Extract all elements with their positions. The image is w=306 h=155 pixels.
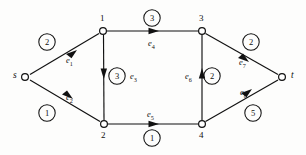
capacity-label-e2: 1 <box>41 109 53 118</box>
node-4[interactable] <box>199 121 206 128</box>
edge-label-e3: e3 <box>130 72 137 83</box>
capacity-label-e5: 1 <box>146 134 158 143</box>
network-diagram-canvas: s 1 2 3 4 t 2 1 3 3 1 2 2 5 e1 e2 e3 e4 … <box>0 0 306 155</box>
edge-label-e2-sub: 2 <box>70 97 73 104</box>
arrowhead-e4 <box>149 28 160 34</box>
node-label-s: s <box>13 71 17 81</box>
edge-label-e5: e5 <box>147 110 154 121</box>
node-label-4: 4 <box>199 131 204 140</box>
node-s[interactable] <box>22 74 29 81</box>
edge-label-e8-sub: 8 <box>244 92 247 99</box>
edge-label-e6-sub: 6 <box>189 76 192 83</box>
edge-label-e1: e1 <box>66 56 73 67</box>
capacity-label-e6: 2 <box>206 72 218 81</box>
node-2[interactable] <box>101 121 108 128</box>
capacity-label-e1: 2 <box>41 38 53 47</box>
node-t[interactable] <box>279 74 286 81</box>
node-label-3: 3 <box>199 14 204 23</box>
node-label-t: t <box>291 71 294 81</box>
node-3[interactable] <box>199 28 206 35</box>
edge-label-e2: e2 <box>66 93 73 104</box>
node-label-2: 2 <box>101 131 106 140</box>
graph-svg <box>0 0 306 155</box>
arrowhead-e3 <box>101 69 107 80</box>
arrowhead-e5 <box>149 121 160 127</box>
edge-label-e4: e4 <box>148 39 155 50</box>
capacity-label-e8: 5 <box>247 109 259 118</box>
capacity-label-e3: 3 <box>111 72 123 81</box>
edge-label-e6: e6 <box>185 72 192 83</box>
edge-label-e8: e8 <box>240 88 247 99</box>
node-label-1: 1 <box>100 14 105 23</box>
edge-label-e3-sub: 3 <box>134 76 137 83</box>
edge-label-e7-sub: 7 <box>243 62 246 69</box>
capacity-label-e7: 2 <box>245 38 257 47</box>
edge-label-e7: e7 <box>239 58 246 69</box>
edge-label-e5-sub: 5 <box>151 114 154 121</box>
node-1[interactable] <box>100 28 107 35</box>
edge-label-e1-sub: 1 <box>70 60 73 67</box>
capacity-label-e4: 3 <box>146 14 158 23</box>
edge-label-e4-sub: 4 <box>152 43 155 50</box>
